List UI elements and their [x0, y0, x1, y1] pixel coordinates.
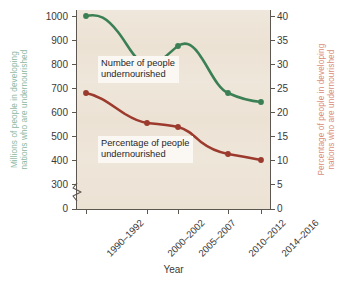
right-axis-title-line1: Percentage of people in developing	[317, 20, 327, 200]
red-point-2010-2012	[225, 151, 231, 157]
annotation-green-line1: Number of people	[101, 58, 175, 68]
right-tick-15: 15	[277, 131, 288, 142]
left-tick-1000: 1000	[22, 11, 68, 22]
right-tickmark-20	[271, 112, 275, 113]
x-tickmark-2005-2007	[178, 210, 179, 214]
right-tick-0: 0	[277, 203, 283, 214]
right-tickmark-25	[271, 88, 275, 89]
right-tick-30: 30	[277, 59, 288, 70]
red-point-2005-2007	[175, 124, 181, 130]
green-point-2005-2007	[175, 43, 181, 49]
annotation-percentage-undernourished: Percentage of people undernourished	[98, 136, 193, 163]
right-axis-title: Percentage of people in developing natio…	[317, 20, 336, 200]
left-tick-900: 900	[22, 35, 68, 46]
left-axis-title-line1: Millions of people in developing	[10, 20, 20, 200]
left-tick-500: 500	[22, 131, 68, 142]
bottom-axis-line	[76, 209, 272, 210]
x-tick-label-1990-1992: 1990–1992	[104, 217, 146, 259]
left-axis-line	[76, 10, 77, 210]
annotation-red-line1: Percentage of people	[101, 138, 189, 148]
left-tick-600: 600	[22, 107, 68, 118]
right-tickmark-35	[271, 40, 275, 41]
red-point-1990-1992	[83, 90, 89, 96]
right-tick-20: 20	[277, 107, 288, 118]
left-tick-400: 400	[22, 155, 68, 166]
annotation-green-line2: undernourished	[101, 69, 175, 80]
annotation-red-line2: undernourished	[101, 149, 189, 160]
right-tick-5: 5	[277, 179, 283, 190]
right-tick-10: 10	[277, 155, 288, 166]
green-point-2014-2016	[258, 99, 264, 105]
right-tickmark-40	[271, 16, 275, 17]
left-tick-300: 300	[22, 179, 68, 190]
x-axis-title: Year	[0, 264, 347, 275]
right-axis-line	[270, 10, 271, 210]
annotation-number-undernourished: Number of people undernourished	[98, 56, 179, 83]
right-tick-40: 40	[277, 11, 288, 22]
left-tick-0: 0	[22, 203, 68, 214]
red-point-2014-2016	[258, 157, 264, 163]
green-point-2010-2012	[225, 90, 231, 96]
chart-data-layer	[77, 10, 270, 210]
right-tickmark-30	[271, 64, 275, 65]
x-tickmark-2010-2012	[228, 210, 229, 214]
red-point-2000-2002	[144, 120, 150, 126]
right-tickmark-10	[271, 160, 275, 161]
right-axis-title-line2: nations who are undernourished	[327, 20, 337, 200]
x-tickmark-2000-2002	[147, 210, 148, 214]
x-tickmark-1990-1992	[86, 210, 87, 214]
right-tick-25: 25	[277, 83, 288, 94]
chart-figure: Millions of people in developing nations…	[0, 0, 347, 285]
right-tickmark-5	[271, 184, 275, 185]
right-tickmark-15	[271, 136, 275, 137]
x-tickmark-2014-2016	[261, 210, 262, 214]
left-tick-700: 700	[22, 83, 68, 94]
left-tick-800: 800	[22, 59, 68, 70]
axis-break-icon	[70, 183, 84, 201]
right-tick-35: 35	[277, 35, 288, 46]
green-point-1990-1992	[83, 13, 89, 19]
plot-area	[77, 10, 270, 210]
